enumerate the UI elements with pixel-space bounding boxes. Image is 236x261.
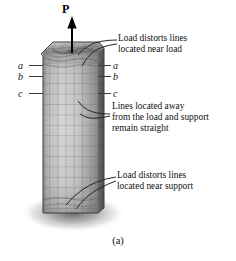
section-label-b-right: b	[113, 72, 118, 82]
annotation-away-line-3: remain straight	[112, 123, 209, 134]
figure-caption: (a)	[0, 235, 236, 246]
section-label-a-right: a	[113, 61, 118, 71]
annotation-near-load: Load distorts lines located near load	[118, 33, 187, 55]
load-label-P: P	[62, 3, 70, 15]
annotation-near-load-line-1: Load distorts lines	[118, 33, 187, 44]
annotation-near-support-line-1: Load distorts lines	[117, 170, 193, 181]
annotation-near-support: Load distorts lines located near support	[117, 170, 193, 192]
figure-axial-load-column: P Load distorts lines located near load …	[0, 0, 236, 261]
annotation-away-line-2: from the load and support	[112, 112, 209, 123]
annotation-away-line-1: Lines located away	[112, 101, 209, 112]
section-label-c-left: c	[18, 89, 22, 99]
section-label-c-right: c	[113, 89, 117, 99]
annotation-near-load-line-2: located near load	[118, 44, 187, 55]
section-label-a-left: a	[18, 61, 23, 71]
annotation-near-support-line-2: located near support	[117, 181, 193, 192]
section-leaders-left	[29, 66, 43, 94]
annotation-away-from-load: Lines located away from the load and sup…	[112, 101, 209, 135]
section-label-b-left: b	[18, 72, 23, 82]
